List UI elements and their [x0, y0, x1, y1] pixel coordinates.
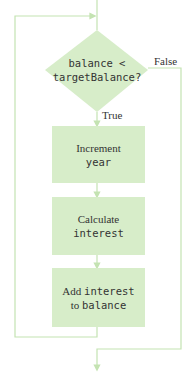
step-3-line-2: to balance — [71, 298, 127, 312]
step-calculate-interest: Calculate interest — [52, 197, 145, 255]
step-1-text: Increment — [76, 141, 121, 155]
step-1-code: year — [86, 155, 111, 169]
step-add-interest-to-balance: Add interest to balance — [52, 268, 145, 327]
step-2-text: Calculate — [78, 212, 120, 226]
condition-line-2: targetBalance? — [45, 70, 149, 84]
decision-condition: balance < targetBalance? — [45, 56, 149, 84]
condition-line-1: balance < — [45, 56, 149, 70]
step-3-text-to: to — [71, 299, 80, 311]
step-3-code-balance: balance — [82, 299, 126, 311]
step-3-code-interest: interest — [84, 285, 135, 297]
false-label: False — [154, 55, 177, 67]
flowchart: balance < targetBalance? False True Incr… — [0, 0, 193, 375]
step-2-code: interest — [73, 226, 124, 240]
true-label: True — [102, 109, 122, 121]
step-increment-year: Increment year — [52, 126, 145, 183]
step-3-text-add: Add — [62, 285, 81, 297]
step-3-line-1: Add interest — [62, 284, 134, 298]
